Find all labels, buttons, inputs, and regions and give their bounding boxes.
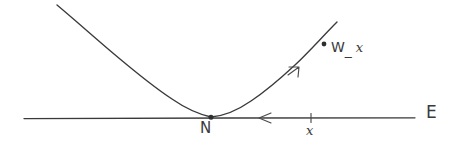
sketch-canvas (0, 0, 454, 151)
sketch-figure: N E x W_x (0, 0, 454, 151)
manifold-curve (57, 5, 337, 117)
label-manifold-argument: x (356, 41, 363, 54)
point-marker-W (322, 42, 327, 47)
label-axis-E: E (426, 104, 437, 121)
label-manifold-subscript: _ (345, 43, 352, 57)
curve-flow-arrowhead (288, 67, 299, 77)
label-manifold-point: W_x (331, 40, 363, 54)
label-fixed-point-N: N (200, 121, 211, 136)
label-manifold-W: W (331, 40, 345, 54)
label-axis-point-x: x (306, 124, 313, 137)
axis-line-E (24, 118, 415, 119)
